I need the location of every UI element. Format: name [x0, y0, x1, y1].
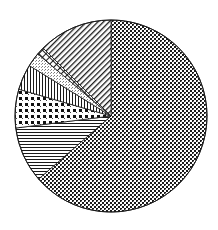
pie-chart: [0, 0, 218, 230]
pie-slices: [15, 20, 207, 212]
